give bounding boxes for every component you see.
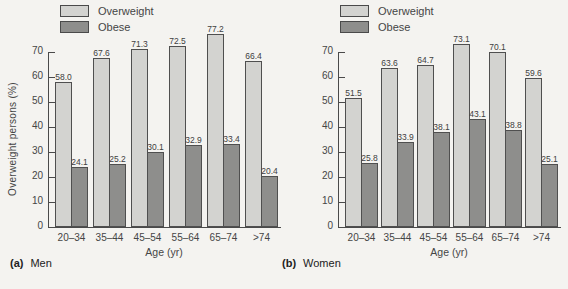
- x-axis-label: Age (yr): [145, 246, 182, 258]
- bar-value-label: 71.3: [131, 39, 148, 49]
- y-tick-label: 70: [32, 46, 43, 56]
- bar-value-label: 33.4: [223, 134, 240, 144]
- bar-value-label: 67.6: [93, 48, 110, 58]
- bar-value-label: 43.1: [469, 109, 486, 119]
- y-tick-label: 20: [322, 171, 333, 181]
- bar-group: 51.525.820–34: [345, 52, 378, 227]
- bar-group: 77.233.465–74: [207, 52, 240, 227]
- x-category-label: 45–54: [420, 232, 448, 243]
- obese-swatch-icon: [60, 21, 89, 33]
- legend-row-overweight: Overweight: [340, 5, 434, 17]
- bar-value-label: 25.2: [109, 154, 126, 164]
- y-tick-label: 50: [322, 96, 333, 106]
- bar-group: 70.138.865–74: [489, 52, 522, 227]
- x-category-label: 65–74: [210, 232, 238, 243]
- bar-value-label: 66.4: [245, 51, 262, 61]
- bar-value-label: 24.1: [71, 157, 88, 167]
- bar-value-label: 33.9: [397, 132, 414, 142]
- obese-bar: 33.4: [223, 144, 240, 228]
- bar-value-label: 58.0: [55, 72, 72, 82]
- y-tick-label: 60: [32, 71, 43, 81]
- x-category-label: 65–74: [492, 232, 520, 243]
- women-chart-panel: Overweight Obese 01020304050607051.525.8…: [282, 0, 568, 289]
- bar-value-label: 70.1: [489, 42, 506, 52]
- overweight-bar: 70.1: [489, 52, 506, 227]
- obese-bar: 25.8: [361, 163, 378, 228]
- obese-bar: 38.8: [505, 130, 522, 227]
- bar-group: 72.532.955–64: [169, 52, 202, 227]
- bar-value-label: 73.1: [453, 34, 470, 44]
- bar-value-label: 64.7: [417, 55, 434, 65]
- men-plot-area: 01020304050607058.024.120–3467.625.235–4…: [48, 52, 281, 228]
- legend-row-overweight: Overweight: [60, 5, 154, 17]
- bar-group: 73.143.155–64: [453, 52, 486, 227]
- y-tick-label: 0: [37, 221, 43, 231]
- legend: Overweight Obese: [60, 5, 154, 33]
- y-tick-label: 50: [32, 96, 43, 106]
- bar-value-label: 38.1: [433, 122, 450, 132]
- men-chart-panel: Overweight Obese Overweight persons (%) …: [0, 0, 282, 289]
- bar-group: 63.633.935–44: [381, 52, 414, 227]
- legend-label-overweight: Overweight: [378, 5, 434, 17]
- obese-swatch-icon: [340, 21, 369, 33]
- legend: Overweight Obese: [340, 5, 434, 33]
- y-axis-label: Overweight persons (%): [7, 82, 18, 196]
- y-tick-label: 30: [322, 146, 333, 156]
- bar-value-label: 72.5: [169, 36, 186, 46]
- legend-row-obese: Obese: [60, 21, 154, 33]
- bar-group: 66.420.4>74: [245, 52, 278, 227]
- x-category-label: 35–44: [96, 232, 124, 243]
- y-tick-label: 30: [32, 146, 43, 156]
- overweight-bar: 64.7: [417, 65, 434, 227]
- x-category-label: 45–54: [134, 232, 162, 243]
- legend-row-obese: Obese: [340, 21, 434, 33]
- chart-caption: (b)Women: [282, 257, 341, 269]
- obese-bar: 25.2: [109, 164, 126, 227]
- bar-value-label: 32.9: [185, 135, 202, 145]
- chart-caption: (a)Men: [10, 257, 52, 269]
- bar-value-label: 77.2: [207, 24, 224, 34]
- overweight-bar: 77.2: [207, 34, 224, 227]
- bar-group: 64.738.145–54: [417, 52, 450, 227]
- legend-label-overweight: Overweight: [98, 5, 154, 17]
- y-tick-label: 60: [322, 71, 333, 81]
- overweight-bar: 63.6: [381, 68, 398, 227]
- bar-value-label: 59.6: [525, 68, 542, 78]
- obese-bar: 20.4: [261, 176, 278, 227]
- overweight-bar: 66.4: [245, 61, 262, 227]
- bar-value-label: 51.5: [345, 88, 362, 98]
- x-category-label: 55–64: [172, 232, 200, 243]
- legend-label-obese: Obese: [98, 21, 130, 33]
- obese-bar: 24.1: [71, 167, 88, 227]
- y-tick-label: 0: [327, 221, 333, 231]
- x-category-label: >74: [533, 232, 550, 243]
- bar-group: 59.625.1>74: [525, 52, 558, 227]
- y-tick-label: 40: [322, 121, 333, 131]
- y-tick-label: 20: [32, 171, 43, 181]
- x-category-label: >74: [253, 232, 270, 243]
- y-tick-label: 70: [322, 46, 333, 56]
- bar-group: 58.024.120–34: [55, 52, 88, 227]
- obese-bar: 33.9: [397, 142, 414, 227]
- bar-value-label: 25.1: [541, 154, 558, 164]
- bar-value-label: 25.8: [361, 153, 378, 163]
- caption-text: Men: [30, 257, 51, 269]
- caption-prefix: (b): [282, 257, 296, 269]
- caption-prefix: (a): [10, 257, 23, 269]
- obese-bar: 43.1: [469, 119, 486, 227]
- overweight-bar: 51.5: [345, 98, 362, 227]
- overweight-bar: 67.6: [93, 58, 110, 227]
- bar-value-label: 20.4: [261, 166, 278, 176]
- y-tick-label: 10: [322, 196, 333, 206]
- x-category-label: 20–34: [58, 232, 86, 243]
- bar-value-label: 30.1: [147, 142, 164, 152]
- bar-group: 67.625.235–44: [93, 52, 126, 227]
- bar-groups: 58.024.120–3467.625.235–4471.330.145–547…: [49, 52, 281, 227]
- obese-bar: 25.1: [541, 164, 558, 227]
- obese-bar: 32.9: [185, 145, 202, 227]
- overweight-swatch-icon: [340, 5, 369, 17]
- overweight-bar: 73.1: [453, 44, 470, 227]
- x-category-label: 20–34: [348, 232, 376, 243]
- overweight-obesity-figure: Overweight Obese Overweight persons (%) …: [0, 0, 568, 289]
- women-plot-area: 01020304050607051.525.820–3463.633.935–4…: [338, 52, 561, 228]
